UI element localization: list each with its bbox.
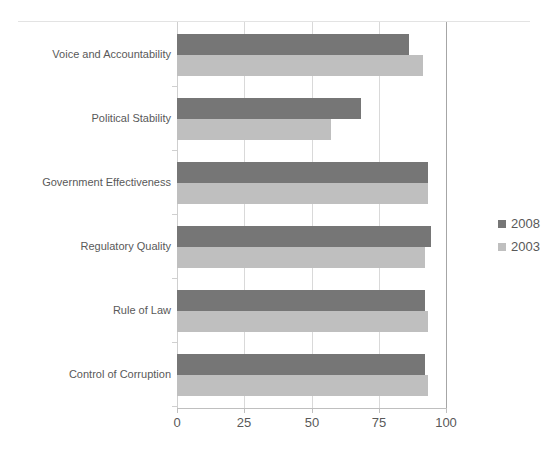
- gridline-100: [446, 22, 447, 408]
- legend-label-2008: 2008: [511, 216, 540, 231]
- value-axis-tick-25: [244, 408, 245, 413]
- value-axis-label-100: 100: [435, 415, 457, 430]
- gridline-25: [244, 22, 245, 408]
- category-label-control-of-corruption: Control of Corruption: [5, 368, 171, 381]
- bar-2008-voice-and-accountability: [177, 34, 409, 55]
- value-axis-tick-75: [379, 408, 380, 413]
- bar-2008-political-stability: [177, 98, 361, 119]
- legend-item-2008[interactable]: 2008: [498, 212, 542, 235]
- category-axis-labels: Voice and Accountability Political Stabi…: [0, 22, 171, 408]
- value-axis-label-25: 25: [237, 415, 251, 430]
- bar-chart: Voice and Accountability Political Stabi…: [0, 0, 542, 459]
- legend-swatch-icon-2008: [498, 220, 506, 228]
- plot-area: [177, 22, 447, 408]
- value-axis-label-50: 50: [305, 415, 319, 430]
- bar-2008-government-effectiveness: [177, 162, 428, 183]
- bar-2003-control-of-corruption: [177, 375, 428, 396]
- gridline-50: [312, 22, 313, 408]
- legend-label-2003: 2003: [511, 239, 540, 254]
- bar-2008-rule-of-law: [177, 290, 425, 311]
- bar-2003-political-stability: [177, 119, 331, 140]
- bar-2003-rule-of-law: [177, 311, 428, 332]
- gridline-0: [177, 22, 178, 408]
- category-label-political-stability: Political Stability: [5, 112, 171, 125]
- value-axis-label-0: 0: [173, 415, 180, 430]
- bar-2008-control-of-corruption: [177, 354, 425, 375]
- bar-2003-voice-and-accountability: [177, 55, 423, 76]
- bar-2003-regulatory-quality: [177, 247, 425, 268]
- value-axis-tick-100: [446, 408, 447, 413]
- gridline-75: [379, 22, 380, 408]
- category-label-regulatory-quality: Regulatory Quality: [5, 240, 171, 253]
- category-label-government-effectiveness: Government Effectiveness: [5, 176, 171, 189]
- category-label-voice-and-accountability: Voice and Accountability: [5, 48, 171, 61]
- legend-swatch-icon-2003: [498, 243, 506, 251]
- value-axis-label-75: 75: [372, 415, 386, 430]
- value-axis-tick-labels: 0 25 50 75 100: [0, 415, 542, 439]
- legend-item-2003[interactable]: 2003: [498, 235, 542, 258]
- chart-legend: 2008 2003: [498, 212, 542, 258]
- bar-2008-regulatory-quality: [177, 226, 431, 247]
- bar-2003-government-effectiveness: [177, 183, 428, 204]
- category-label-rule-of-law: Rule of Law: [5, 304, 171, 317]
- value-axis-tick-50: [312, 408, 313, 413]
- value-axis-tick-0: [177, 408, 178, 413]
